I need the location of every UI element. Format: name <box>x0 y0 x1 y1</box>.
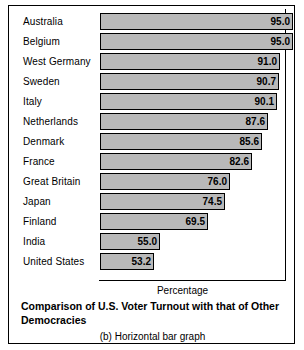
x-axis-label: Percentage <box>9 285 295 296</box>
bar-category-label: Belgium <box>23 32 60 52</box>
bar-value-label: 82.6 <box>100 153 252 170</box>
bar-track: 87.6 <box>100 112 295 132</box>
bar-value-label: 76.0 <box>100 173 230 190</box>
bar-track: 95.0 <box>100 32 295 52</box>
bar-row: Netherlands87.6 <box>9 112 295 132</box>
bar-row: Denmark85.6 <box>9 132 295 152</box>
bar-value-label: 90.7 <box>100 73 279 90</box>
bar-track: 53.2 <box>100 252 295 272</box>
bar-row: Australia95.0 <box>9 12 295 32</box>
bar-value-label: 87.6 <box>100 113 268 130</box>
bar-row: Japan74.5 <box>9 192 295 212</box>
bar-value-label: 95.0 <box>100 13 293 30</box>
bar-category-label: France <box>23 152 55 172</box>
bar-row: India55.0 <box>9 232 295 252</box>
bar-category-label: Japan <box>23 192 51 212</box>
bar-row: Finland69.5 <box>9 212 295 232</box>
bar-category-label: Great Britain <box>23 172 80 192</box>
bar-category-label: Finland <box>23 212 57 232</box>
bar-category-label: Netherlands <box>23 112 78 132</box>
bar-value-label: 95.0 <box>100 33 293 50</box>
bar-value-label: 85.6 <box>100 133 262 150</box>
bar-track: 55.0 <box>100 232 295 252</box>
bar-row: Belgium95.0 <box>9 32 295 52</box>
bar-row: France82.6 <box>9 152 295 172</box>
bar-value-label: 74.5 <box>100 193 225 210</box>
bar-track: 90.7 <box>100 72 295 92</box>
bar-category-label: India <box>23 232 45 252</box>
bar-track: 82.6 <box>100 152 295 172</box>
bar-row: Great Britain76.0 <box>9 172 295 192</box>
bar-value-label: 53.2 <box>100 253 154 270</box>
bar-category-label: Sweden <box>23 72 60 92</box>
bar-rows: Australia95.0Belgium95.0West Germany91.0… <box>9 12 295 272</box>
bar-value-label: 55.0 <box>100 233 160 250</box>
bar-track: 69.5 <box>100 212 295 232</box>
figure-panel: Australia95.0Belgium95.0West Germany91.0… <box>8 5 295 344</box>
bar-category-label: Denmark <box>23 132 64 152</box>
chart-sub-caption: (b) Horizontal bar graph <box>9 331 295 342</box>
bar-category-label: United States <box>23 252 84 272</box>
bar-track: 91.0 <box>100 52 295 72</box>
bar-category-label: West Germany <box>23 52 91 72</box>
bar-row: Sweden90.7 <box>9 72 295 92</box>
bar-category-label: Australia <box>23 12 63 32</box>
bar-track: 95.0 <box>100 12 295 32</box>
bar-row: West Germany91.0 <box>9 52 295 72</box>
bar-chart: Australia95.0Belgium95.0West Germany91.0… <box>9 6 295 283</box>
bar-value-label: 69.5 <box>100 213 208 230</box>
bar-track: 74.5 <box>100 192 295 212</box>
bar-row: Italy90.1 <box>9 92 295 112</box>
chart-caption: Comparison of U.S. Voter Turnout with th… <box>21 300 286 327</box>
bar-value-label: 91.0 <box>100 53 280 70</box>
bar-category-label: Italy <box>23 92 42 112</box>
bar-track: 90.1 <box>100 92 295 112</box>
bar-track: 85.6 <box>100 132 295 152</box>
bar-row: United States53.2 <box>9 252 295 272</box>
bar-value-label: 90.1 <box>100 93 277 110</box>
x-axis-label-text: Percentage <box>157 285 208 296</box>
bar-track: 76.0 <box>100 172 295 192</box>
